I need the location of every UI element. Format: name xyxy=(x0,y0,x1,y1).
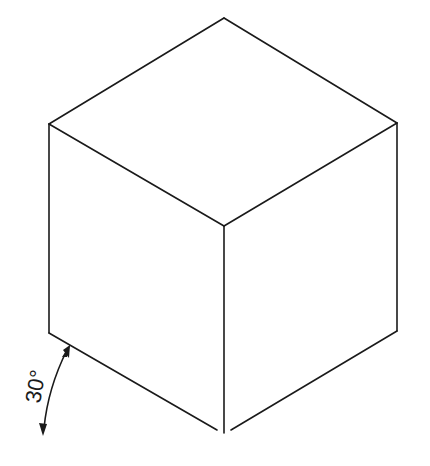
bottom-left-edge xyxy=(49,333,217,430)
cube xyxy=(49,18,397,433)
top-face-edge-left-front xyxy=(49,124,224,226)
top-face-edge-right-back xyxy=(224,18,397,123)
isometric-cube-diagram: 30° xyxy=(0,0,430,466)
bottom-right-edge xyxy=(231,331,397,430)
angle-label: 30° xyxy=(20,368,50,405)
arrowhead-down-icon xyxy=(39,423,47,436)
top-face-edge-right-front xyxy=(224,123,397,226)
top-face-edge-left-back xyxy=(49,18,224,124)
angle-annotation: 30° xyxy=(20,345,70,436)
